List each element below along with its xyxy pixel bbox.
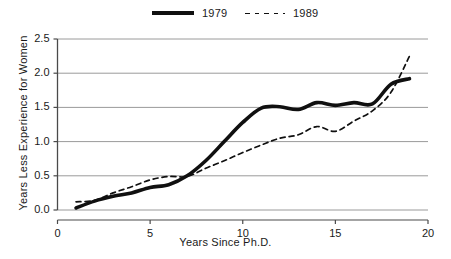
- chart-plot-area: 0.00.51.01.52.02.5 05101520 Years Since …: [0, 0, 451, 259]
- y-axis-title: Years Less Experience for Women: [17, 23, 29, 223]
- x-axis-title: Years Since Ph.D.: [0, 236, 451, 248]
- data-series-layer: [76, 56, 409, 208]
- data-line-1989: [76, 56, 409, 202]
- chart-canvas: [0, 0, 451, 259]
- data-line-1979: [76, 79, 409, 208]
- chart-page: 1979 1989 0.00.51.01.52.02.5 05101520 Ye…: [0, 0, 451, 259]
